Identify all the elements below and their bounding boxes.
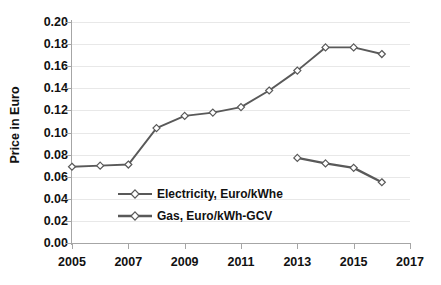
data-point-marker [322,160,329,167]
legend-label-gas: Gas, Euro/kWh-GCV [157,209,272,223]
data-point-marker [294,154,301,161]
x-axis-tick-mark [128,243,129,249]
x-axis-tick-mark [72,243,73,249]
legend-marker-electricity [118,188,152,200]
y-axis-tick-mark [65,155,71,156]
y-axis-tick-mark [65,177,71,178]
legend-marker-gas [118,210,152,222]
x-axis-tick-mark [410,243,411,249]
x-axis-tick-mark [241,243,242,249]
data-point-marker [378,51,385,58]
series-gas [294,154,386,185]
x-axis-tick-mark [354,243,355,249]
data-point-marker [69,163,76,170]
y-axis-tick-mark [65,221,71,222]
price-trend-line-chart: Price in Euro 0.000.020.040.060.080.100.… [0,0,441,285]
legend-item-gas: Gas, Euro/kWh-GCV [118,206,283,226]
data-point-marker [181,112,188,119]
y-axis-tick-mark [65,88,71,89]
data-point-marker [350,44,357,51]
data-point-marker [209,109,216,116]
x-axis-tick-mark [185,243,186,249]
data-point-marker [97,162,104,169]
legend-item-electricity: Electricity, Euro/kWhe [118,184,283,204]
y-axis-tick-mark [65,66,71,67]
series-electricity [69,44,386,170]
y-axis-tick-mark [65,44,71,45]
x-axis-tick-mark [297,243,298,249]
series-line [297,158,382,182]
chart-legend: Electricity, Euro/kWhe Gas, Euro/kWh-GCV [118,184,283,228]
y-axis-tick-mark [65,133,71,134]
series-line [72,47,382,166]
y-axis-tick-mark [65,22,71,23]
legend-label-electricity: Electricity, Euro/kWhe [157,187,283,201]
y-axis-tick-mark [65,110,71,111]
y-axis-tick-mark [65,243,71,244]
y-axis-tick-mark [65,199,71,200]
